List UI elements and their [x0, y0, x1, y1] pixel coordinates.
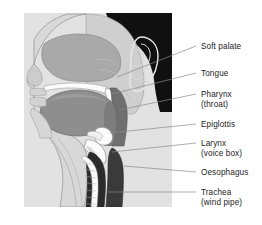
label-larynx: Larynx — [201, 139, 226, 148]
label-larynx-sub: (voice box) — [201, 149, 242, 158]
label-trachea: Trachea — [201, 188, 232, 197]
anatomy-diagram-svg: Soft palate Tongue Pharynx (throat) Epig… — [0, 0, 262, 225]
lower-lip — [30, 97, 46, 106]
oesophagus-structure — [106, 148, 123, 207]
upper-lip — [30, 88, 46, 96]
label-oesophagus: Oesophagus — [201, 168, 248, 177]
label-epiglottis: Epiglottis — [201, 120, 235, 129]
anatomy-figure: Soft palate Tongue Pharynx (throat) Epig… — [0, 0, 262, 225]
label-pharynx: Pharynx — [201, 90, 232, 99]
label-soft-palate: Soft palate — [201, 42, 242, 51]
label-pharynx-sub: (throat) — [201, 100, 228, 109]
label-trachea-sub: (wind pipe) — [201, 198, 242, 207]
label-tongue: Tongue — [201, 69, 229, 78]
